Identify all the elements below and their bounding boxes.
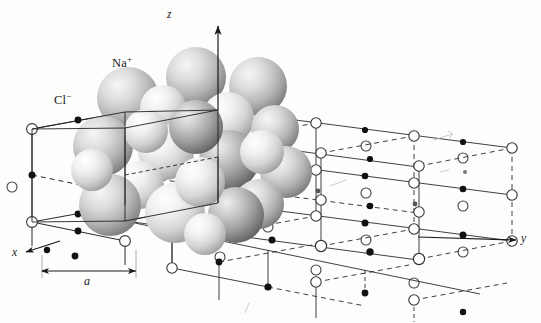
site-anion-interior <box>458 247 468 257</box>
sodium-ion-sphere <box>175 157 225 207</box>
sodium-ion-sphere <box>71 149 113 191</box>
site-anion <box>507 143 517 153</box>
site-cation <box>367 156 373 162</box>
site-cation <box>362 173 369 180</box>
site-anion <box>409 131 419 141</box>
edge-lower-depth-a <box>219 245 312 262</box>
site-cation <box>72 253 79 260</box>
site-anion <box>413 253 424 264</box>
site-anion <box>316 195 326 205</box>
site-cation-interior <box>413 202 418 207</box>
site-cation <box>269 237 276 244</box>
sodium-ion-sphere <box>124 109 168 153</box>
site-anion-interior <box>361 235 371 245</box>
site-anion-interior <box>458 153 468 163</box>
sodium-ion-sphere <box>240 130 284 174</box>
site-anion <box>507 190 517 200</box>
site-cation <box>460 139 466 145</box>
depth-bottom-3 <box>321 229 414 246</box>
site-anion <box>409 178 419 188</box>
edge-lower-a <box>172 268 268 287</box>
axis-y-line <box>418 237 516 240</box>
edge-lower-b <box>268 287 365 306</box>
site-cation <box>460 186 467 193</box>
site-anion-interior <box>311 265 321 275</box>
site-anion-interior <box>7 182 17 192</box>
site-anion <box>311 118 321 128</box>
edge-lower-depth-b <box>316 265 409 282</box>
site-anion <box>409 224 419 234</box>
site-cation <box>264 283 271 290</box>
axis-x-line <box>26 241 60 252</box>
site-anion <box>315 240 326 251</box>
site-cation <box>460 309 466 315</box>
site-anion <box>507 236 517 246</box>
site-cation-interior <box>463 170 467 174</box>
lattice-diagram-svg <box>0 0 541 323</box>
site-cation <box>75 228 82 235</box>
site-anion <box>311 165 321 175</box>
site-cation <box>460 232 467 239</box>
anion-label: Cl− <box>54 93 72 108</box>
site-anion <box>414 207 424 217</box>
site-cation <box>216 259 223 266</box>
pencil-mark-tick <box>245 303 249 313</box>
axis-y-label: y <box>521 232 526 244</box>
site-anion-interior <box>458 201 468 211</box>
site-anion <box>409 295 419 305</box>
pencil-mark-curve <box>330 180 346 186</box>
site-cation <box>367 203 374 210</box>
site-anion <box>311 211 321 221</box>
lattice-constant-label: a <box>84 274 90 289</box>
site-cation <box>362 220 369 227</box>
sodium-ion-sphere <box>184 213 226 255</box>
edge-lower-depth-c <box>414 283 507 300</box>
chloride-ion-sphere <box>169 100 223 154</box>
site-anion-interior <box>409 278 419 288</box>
depth-top-4 <box>419 148 512 166</box>
site-cation <box>362 290 369 297</box>
site-anion-interior <box>361 188 371 198</box>
cation-label: Na+ <box>112 56 132 71</box>
site-anion <box>414 161 424 171</box>
site-cation <box>44 247 50 253</box>
site-anion <box>120 236 131 247</box>
axis-x-label: x <box>12 246 17 258</box>
crystal-structure-figure: Na+ Cl− z y x a <box>0 0 541 323</box>
site-cation-interior <box>316 189 321 194</box>
site-anion <box>167 263 177 273</box>
site-anion-interior <box>361 141 371 151</box>
axis-z-label: z <box>167 8 171 20</box>
site-cation <box>366 248 373 255</box>
site-anion <box>311 277 321 287</box>
site-anion <box>316 148 326 158</box>
site-cation <box>362 127 368 133</box>
pencil-mark-dash <box>440 170 449 172</box>
